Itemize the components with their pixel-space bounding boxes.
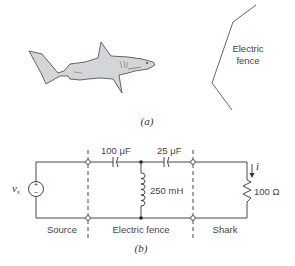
circuit-wires (36, 162, 247, 218)
terminal (86, 160, 91, 165)
caption-a: (a) (141, 115, 154, 128)
source-label: vs (12, 182, 20, 196)
section-label-fence: Electric fence (112, 224, 169, 235)
node-top (139, 160, 143, 164)
fence-label-line2: fence (236, 55, 259, 66)
fence-label-line1: Electric (232, 43, 263, 54)
terminal (191, 216, 196, 221)
capacitor2-label: 25 μF (157, 145, 182, 156)
shark-illustration (29, 42, 155, 93)
shark-fence-figure: Electric fence (a) + − vs 100 μF 25 (0, 0, 295, 266)
current-label: i (256, 160, 259, 172)
svg-text:+: + (34, 181, 38, 188)
terminal (191, 160, 196, 165)
node-bottom (139, 216, 143, 220)
caption-b: (b) (135, 242, 148, 255)
capacitor1-label: 100 μF (101, 145, 131, 156)
section-label-source: Source (47, 224, 77, 235)
svg-text:−: − (34, 189, 38, 196)
inductor-250mH-icon (141, 173, 145, 206)
current-arrow-icon (250, 164, 255, 178)
inductor-label: 250 mH (150, 185, 183, 196)
resistor-label: 100 Ω (254, 186, 280, 197)
section-label-shark: Shark (213, 224, 238, 235)
voltage-source-icon: + − (29, 181, 44, 197)
terminal (86, 216, 91, 221)
resistor-100ohm-icon (243, 180, 251, 202)
